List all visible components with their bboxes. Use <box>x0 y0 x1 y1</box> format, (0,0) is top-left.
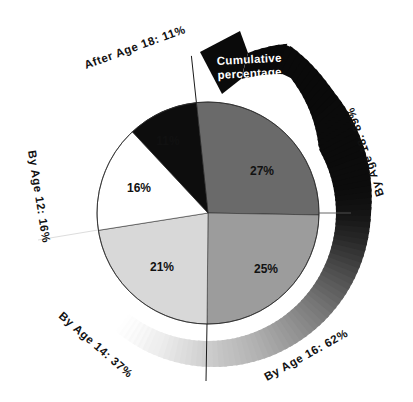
chart-area: 27%25%21%16%11% After Age 18: 11% By Age… <box>0 0 413 402</box>
arrow-title-line2: percentage <box>217 66 282 81</box>
cumulative-pie-chart: 27%25%21%16%11% After Age 18: 11% By Age… <box>0 0 413 402</box>
label-by-age-12: By Age 12: 16% <box>26 149 52 243</box>
pie: 27%25%21%16%11% <box>97 102 319 324</box>
boundary-extension-top <box>191 56 196 103</box>
boundary-extension-bottom <box>206 324 207 381</box>
slice-label-21: 21% <box>150 260 174 274</box>
slice-label-11: 11% <box>156 134 180 148</box>
slice-label-25: 25% <box>254 262 278 276</box>
slice-label-16: 16% <box>127 181 151 195</box>
pie-slice-27 <box>196 102 319 215</box>
label-by-age-14: By Age 14: 37% <box>57 309 136 379</box>
label-after-age-18: After Age 18: 11% <box>83 23 188 71</box>
slice-label-27: 27% <box>250 164 274 178</box>
